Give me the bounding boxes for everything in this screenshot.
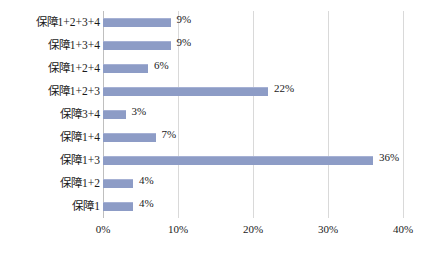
- bar-value-label: 7%: [162, 128, 177, 141]
- category-label: 保障1+2: [2, 172, 100, 195]
- bar-value-label: 6%: [154, 59, 169, 72]
- x-axis-tick-label: 10%: [168, 223, 188, 236]
- x-axis: 0%10%20%30%40%: [103, 219, 403, 239]
- bar-chart: 保障1+2+3+4保障1+3+4保障1+2+4保障1+2+3保障3+4保障1+4…: [0, 0, 430, 253]
- x-axis-tick-label: 30%: [318, 223, 338, 236]
- x-axis-tick-label: 0%: [96, 223, 111, 236]
- bar: [103, 156, 373, 165]
- category-label: 保障1+2+4: [2, 57, 100, 80]
- category-label: 保障1: [2, 195, 100, 218]
- bar-value-label: 3%: [132, 105, 147, 118]
- x-axis-tick-label: 40%: [393, 223, 413, 236]
- x-axis-tick-label: 20%: [243, 223, 263, 236]
- bar: [103, 202, 133, 211]
- category-label: 保障1+2+3: [2, 80, 100, 103]
- bar-row: 9%: [103, 34, 403, 57]
- bar-value-label: 9%: [177, 36, 192, 49]
- bar-row: 6%: [103, 57, 403, 80]
- category-label: 保障1+2+3+4: [2, 11, 100, 34]
- plot-area: 9%9%6%22%3%7%36%4%4%: [103, 11, 403, 218]
- bar-row: 3%: [103, 103, 403, 126]
- bar-row: 4%: [103, 195, 403, 218]
- bar-value-label: 4%: [139, 174, 154, 187]
- bar: [103, 18, 171, 27]
- bar-value-label: 4%: [139, 197, 154, 210]
- bar: [103, 179, 133, 188]
- bar-row: 7%: [103, 126, 403, 149]
- bar: [103, 87, 268, 96]
- bar-row: 22%: [103, 80, 403, 103]
- bar-row: 9%: [103, 11, 403, 34]
- bar: [103, 110, 126, 119]
- category-label: 保障1+3+4: [2, 34, 100, 57]
- bar: [103, 64, 148, 73]
- gridline-40pct: [403, 11, 404, 218]
- bar-value-label: 22%: [274, 82, 294, 95]
- category-label: 保障1+4: [2, 126, 100, 149]
- category-label: 保障1+3: [2, 149, 100, 172]
- bar-row: 36%: [103, 149, 403, 172]
- bar-value-label: 36%: [379, 151, 399, 164]
- category-axis: 保障1+2+3+4保障1+3+4保障1+2+4保障1+2+3保障3+4保障1+4…: [0, 11, 100, 218]
- bar-row: 4%: [103, 172, 403, 195]
- bar-value-label: 9%: [177, 13, 192, 26]
- category-label: 保障3+4: [2, 103, 100, 126]
- bar: [103, 133, 156, 142]
- bar: [103, 41, 171, 50]
